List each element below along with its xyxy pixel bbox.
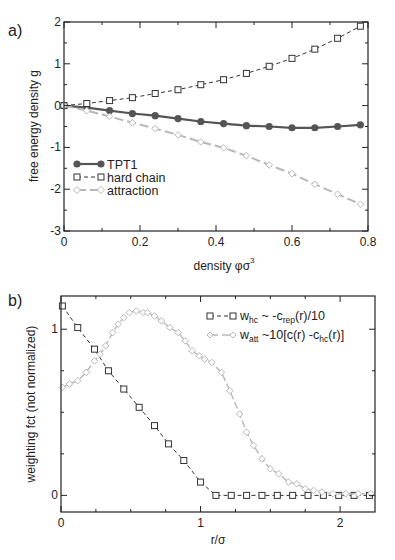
- series-hard-chain: [61, 23, 363, 108]
- data-point-diamond-icon: [294, 480, 301, 487]
- data-point-square-icon: [259, 492, 265, 498]
- data-point-square-icon: [266, 63, 272, 69]
- data-point-diamond-icon: [109, 329, 116, 336]
- data-point-square-icon: [213, 492, 219, 498]
- panel-b-legend: whc ~ -crep(r)/10 watt ~10[c(r) -chc(r)]: [207, 309, 344, 344]
- panel-a-axes: 00.20.40.60.8-3-2-1012: [50, 15, 376, 249]
- data-point-square-icon: [129, 95, 135, 101]
- data-point-diamond-icon: [106, 113, 113, 120]
- legend-tpt1-label: TPT1: [107, 158, 138, 172]
- legend-w-hc-marker-icon: [230, 313, 236, 319]
- data-point-diamond-icon: [198, 139, 205, 146]
- legend-hard-chain-label: hard chain: [107, 171, 165, 185]
- data-point-square-icon: [198, 82, 204, 88]
- data-point-circle-icon: [129, 110, 136, 117]
- data-point-diamond-icon: [102, 343, 109, 350]
- panel-b-label: b): [8, 292, 22, 309]
- data-point-square-icon: [228, 492, 234, 498]
- data-point-diamond-icon: [59, 384, 66, 391]
- data-point-circle-icon: [152, 112, 159, 119]
- legend-w-hc-label: whc ~ -crep(r)/10: [239, 309, 325, 325]
- data-point-diamond-icon: [243, 429, 250, 436]
- data-point-square-icon: [136, 404, 142, 410]
- legend-attraction-marker-icon: [98, 187, 105, 194]
- data-point-circle-icon: [266, 123, 273, 130]
- data-point-diamond-icon: [133, 308, 140, 315]
- legend-hard-chain-marker-icon: [74, 174, 80, 180]
- data-point-circle-icon: [174, 115, 181, 122]
- panel-a-y-axis-label: free energy density g: [27, 70, 41, 182]
- legend-w-att-marker-icon: [207, 332, 213, 338]
- legend-attraction-marker-icon: [74, 187, 81, 194]
- data-point-diamond-icon: [334, 191, 341, 198]
- legend-item-w-att: watt ~10[c(r) -chc(r)]: [207, 328, 344, 344]
- figure: a) 00.20.40.60.8-3-2-1012 free energy de…: [0, 0, 395, 560]
- legend-tpt1-marker-icon: [97, 160, 104, 167]
- y-tick-label: 2: [54, 15, 61, 29]
- panel-b-plot-area: [59, 303, 374, 498]
- data-point-circle-icon: [243, 122, 250, 129]
- data-point-square-icon: [105, 368, 111, 374]
- panel-a-x-axis-label-sup: 3: [250, 256, 255, 265]
- y-tick-label: 1: [54, 57, 61, 71]
- legend-item-attraction: attraction: [74, 184, 159, 198]
- data-point-square-icon: [290, 492, 296, 498]
- x-tick-label: 0: [61, 235, 68, 249]
- data-point-diamond-icon: [357, 201, 364, 208]
- legend-item-hard-chain: hard chain: [74, 171, 165, 185]
- data-point-square-icon: [175, 87, 181, 93]
- legend-item-w-hc: whc ~ -crep(r)/10: [207, 309, 325, 325]
- y-tick-label: 0: [54, 99, 61, 113]
- data-point-diamond-icon: [266, 162, 273, 169]
- data-point-diamond-icon: [152, 125, 159, 132]
- data-point-square-icon: [244, 492, 250, 498]
- y-tick-label: 1: [51, 322, 58, 336]
- data-point-circle-icon: [311, 124, 318, 131]
- data-point-square-icon: [181, 457, 187, 463]
- data-point-square-icon: [165, 441, 171, 447]
- data-point-diamond-icon: [289, 170, 296, 177]
- data-point-square-icon: [75, 325, 81, 331]
- data-point-square-icon: [59, 303, 65, 309]
- y-tick-label: -3: [50, 224, 61, 238]
- legend-tpt1-marker-icon: [73, 160, 80, 167]
- data-point-diamond-icon: [236, 411, 243, 418]
- data-point-circle-icon: [357, 121, 364, 128]
- data-point-square-icon: [84, 101, 90, 107]
- data-point-diamond-icon: [175, 132, 182, 139]
- data-point-square-icon: [121, 386, 127, 392]
- panel-a-legend: TPT1 hard chain attraction: [73, 158, 165, 198]
- data-point-square-icon: [221, 77, 227, 83]
- data-point-diamond-icon: [302, 485, 309, 492]
- data-point-diamond-icon: [243, 152, 250, 159]
- data-point-circle-icon: [334, 123, 341, 130]
- legend-w-hc-marker-icon: [207, 313, 213, 319]
- data-point-circle-icon: [220, 120, 227, 127]
- legend-item-tpt1: TPT1: [73, 158, 137, 172]
- panel-b: b) 01201 weighting fct (not normalized) …: [8, 292, 375, 547]
- data-point-square-icon: [289, 55, 295, 61]
- data-point-diamond-icon: [227, 387, 234, 394]
- data-point-square-icon: [335, 35, 341, 41]
- legend-w-att-marker-icon: [230, 332, 236, 338]
- x-tick-label: 0.4: [208, 235, 225, 249]
- x-tick-label: 2: [337, 516, 344, 530]
- data-point-square-icon: [152, 423, 158, 429]
- data-point-diamond-icon: [312, 181, 319, 188]
- data-point-diamond-icon: [275, 470, 282, 477]
- data-point-diamond-icon: [74, 377, 81, 384]
- data-point-diamond-icon: [126, 309, 133, 316]
- legend-w-att-label: watt ~10[c(r) -chc(r)]: [239, 328, 344, 344]
- data-point-square-icon: [357, 23, 363, 29]
- legend-hard-chain-marker-icon: [98, 174, 104, 180]
- data-point-square-icon: [243, 70, 249, 76]
- data-point-square-icon: [91, 346, 97, 352]
- y-tick-label: 0: [51, 488, 58, 502]
- data-point-square-icon: [198, 479, 204, 485]
- data-point-square-icon: [305, 492, 311, 498]
- data-point-square-icon: [107, 98, 113, 104]
- x-tick-label: 0: [58, 516, 65, 530]
- data-point-diamond-icon: [342, 490, 349, 497]
- data-point-diamond-icon: [208, 359, 215, 366]
- panel-a-x-axis-label-text: density φσ: [194, 259, 251, 273]
